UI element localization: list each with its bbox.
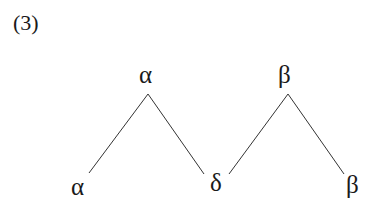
node-leaf-alpha: α bbox=[71, 174, 84, 199]
node-root-alpha: α bbox=[139, 62, 152, 87]
edge-beta-to-delta bbox=[229, 94, 288, 174]
tree-edges bbox=[0, 0, 378, 206]
edge-beta-to-beta bbox=[288, 94, 344, 174]
edge-alpha-to-alpha bbox=[89, 94, 148, 173]
node-leaf-delta: δ bbox=[210, 170, 222, 195]
node-root-beta: β bbox=[278, 62, 291, 87]
node-leaf-beta: β bbox=[346, 172, 359, 197]
edge-alpha-to-delta bbox=[148, 94, 204, 174]
